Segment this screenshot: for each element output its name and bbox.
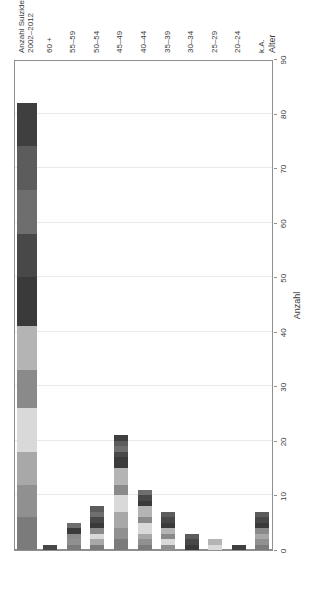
bar-segment: [185, 545, 199, 550]
bar-segment: [161, 517, 175, 522]
gridline: [15, 276, 272, 277]
gridline: [15, 167, 272, 168]
plot-frame: [14, 60, 273, 551]
bar-segment: [138, 506, 152, 517]
bar-segment: [114, 528, 128, 539]
bar-segment: [255, 512, 269, 517]
category-label: 30–34: [186, 31, 195, 53]
tick-mark: [274, 332, 277, 333]
bar-stack: [67, 523, 81, 550]
tick-mark: [274, 495, 277, 496]
bar-segment: [90, 528, 104, 533]
tick-mark: [274, 114, 277, 115]
bar-segment: [255, 539, 269, 544]
bar-segment: [114, 495, 128, 511]
bar-segment: [138, 517, 152, 522]
y-tick-label: 0: [279, 549, 288, 553]
bar-stack: [90, 506, 104, 550]
y-tick-label: 40: [279, 328, 288, 337]
y-tick-label: 50: [279, 274, 288, 283]
category-label-line: 45–49: [115, 31, 124, 53]
bar-segment: [114, 446, 128, 451]
gridline: [15, 385, 272, 386]
bar-segment: [90, 523, 104, 528]
gridline: [15, 222, 272, 223]
category-label-line: 60 +: [45, 37, 54, 53]
bar-stack: [185, 534, 199, 550]
bar-segment: [161, 523, 175, 528]
bar-segment: [208, 539, 222, 544]
bar-segment: [17, 103, 37, 147]
tick-mark: [274, 277, 277, 278]
bar-segment: [67, 539, 81, 544]
category-label: 60 +: [45, 37, 54, 53]
y-tick-label: 30: [279, 383, 288, 392]
bar-segment: [114, 452, 128, 457]
bar-segment: [17, 408, 37, 452]
bar-segment: [161, 539, 175, 544]
bar-stack: [255, 512, 269, 550]
bar-segment: [90, 534, 104, 539]
bar-segment: [185, 539, 199, 544]
bar-segment: [161, 534, 175, 539]
bar-stack: [161, 512, 175, 550]
bar-segment: [255, 534, 269, 539]
bar-segment: [255, 517, 269, 522]
y-axis-title: Anzahl: [292, 292, 302, 320]
bar-segment: [161, 512, 175, 517]
bar-segment: [138, 539, 152, 544]
category-label: 55–59: [68, 31, 77, 53]
bar-segment: [208, 545, 222, 550]
category-label-line: 50–54: [92, 31, 101, 53]
category-label: 20–24: [233, 31, 242, 53]
bar-segment: [138, 534, 152, 539]
category-label-line: k.A.: [257, 39, 266, 53]
plot-area: [15, 61, 272, 550]
y-tick-label: 80: [279, 110, 288, 119]
bar-segment: [17, 452, 37, 485]
category-label: Anzahl Suizide2002–2012: [17, 0, 35, 53]
category-label-line: 35–39: [163, 31, 172, 53]
bar-segment: [67, 523, 81, 528]
bar-segment: [90, 545, 104, 550]
category-label-line: 55–59: [68, 31, 77, 53]
tick-mark: [274, 223, 277, 224]
bar-segment: [138, 501, 152, 506]
bar-segment: [17, 326, 37, 370]
gridline: [15, 440, 272, 441]
bar-segment: [17, 370, 37, 408]
bar-segment: [114, 512, 128, 528]
bar-segment: [114, 485, 128, 496]
bar-segment: [161, 545, 175, 550]
bar-segment: [114, 441, 128, 446]
category-label-line: 2002–2012: [26, 0, 35, 53]
bar-segment: [114, 539, 128, 550]
bar-segment: [17, 277, 37, 326]
bar-segment: [90, 512, 104, 517]
bar-segment: [43, 545, 57, 550]
bar-segment: [185, 534, 199, 539]
gridline: [15, 113, 272, 114]
category-label-line: Anzahl Suizide: [17, 0, 26, 53]
x-axis-title: Alter: [267, 34, 277, 53]
bar-segment: [138, 523, 152, 534]
bar-segment: [90, 506, 104, 511]
bar-stack: [17, 103, 37, 550]
bar-stack: [114, 435, 128, 550]
bar-segment: [90, 517, 104, 522]
bar-segment: [138, 490, 152, 495]
category-label: 40–44: [139, 31, 148, 53]
category-label-line: 40–44: [139, 31, 148, 53]
bar-segment: [255, 545, 269, 550]
y-tick-label: 60: [279, 219, 288, 228]
category-label-line: 25–29: [210, 31, 219, 53]
gridline: [15, 331, 272, 332]
tick-mark: [274, 59, 277, 60]
bar-segment: [67, 534, 81, 539]
bar-stack: [43, 545, 57, 550]
bar-segment: [17, 190, 37, 234]
category-label: 45–49: [115, 31, 124, 53]
bar-stack: [232, 545, 246, 550]
bar-segment: [90, 539, 104, 544]
bar-segment: [17, 517, 37, 550]
